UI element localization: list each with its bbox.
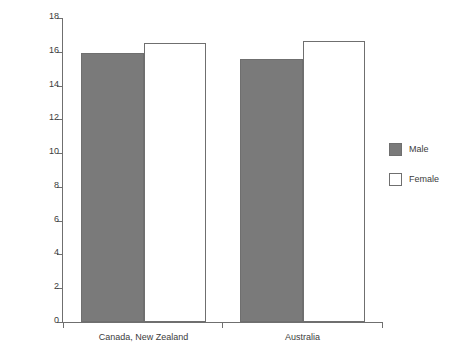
y-axis-tick-label: 4: [54, 247, 59, 257]
bar-chart: Age of first sexual intercourse experien…: [0, 0, 466, 358]
x-axis-tick-mark: [222, 322, 223, 328]
y-axis-tick-label: 10: [49, 146, 59, 156]
y-axis-tick-label: 2: [54, 281, 59, 291]
x-axis-tick-mark: [382, 322, 383, 328]
female-swatch-icon: [389, 173, 402, 186]
legend-label-male: Male: [409, 144, 429, 154]
x-axis-group-label: Canada, New Zealand: [99, 332, 189, 342]
x-axis-group-label: Australia: [285, 332, 320, 342]
x-axis-tick-mark: [63, 322, 64, 328]
y-axis-tick-label: 16: [49, 45, 59, 55]
legend-label-female: Female: [409, 174, 439, 184]
bar-female-0: [144, 43, 207, 322]
legend-item-female: Female: [389, 172, 461, 186]
legend-item-male: Male: [389, 142, 461, 156]
plot-area: 024681012141618: [63, 18, 382, 322]
chart-legend: Male Female: [389, 142, 461, 202]
y-axis-tick-label: 0: [54, 315, 59, 325]
y-axis-tick-label: 8: [54, 180, 59, 190]
bar-male-0: [81, 53, 144, 322]
bar-female-1: [303, 41, 366, 322]
y-axis-tick-label: 14: [49, 79, 59, 89]
y-axis-tick-label: 18: [49, 11, 59, 21]
x-axis-line: [63, 322, 383, 323]
y-axis-tick-label: 6: [54, 214, 59, 224]
y-axis-tick-label: 12: [49, 112, 59, 122]
bar-male-1: [240, 59, 303, 322]
male-swatch-icon: [389, 143, 402, 156]
